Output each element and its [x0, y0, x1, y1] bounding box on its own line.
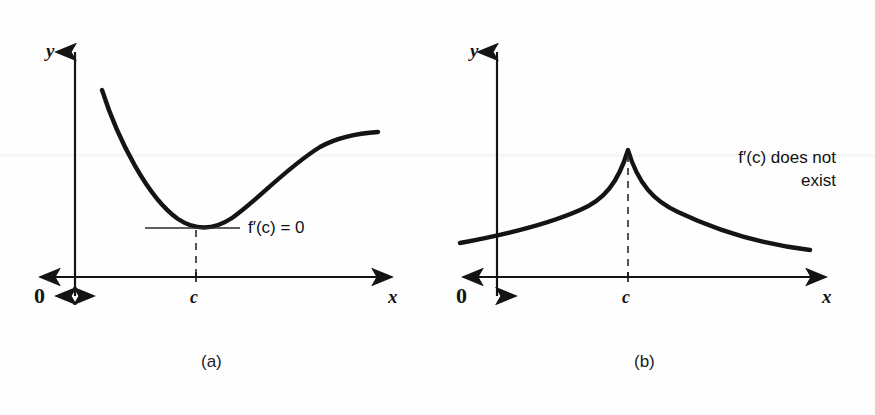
c-label-a: c [190, 287, 198, 308]
figure-root: y x 0 c f′(c) = 0 (a) [0, 0, 875, 415]
c-label-b: c [622, 287, 630, 308]
annotation-dne-text-line2: exist [801, 171, 836, 190]
panel-b: y x 0 c f′(c) does not exist (b) [438, 0, 875, 415]
annotation-dne-text-line1: f′(c) does not [738, 148, 836, 167]
function-curve-a [102, 90, 378, 228]
annotation-derivative-dne-line1: f′(c) does not exist [666, 147, 836, 193]
x-axis-label-a: x [388, 286, 398, 308]
panel-a: y x 0 c f′(c) = 0 (a) [0, 0, 437, 415]
y-axis-label-b: y [470, 40, 478, 62]
caption-a: (a) [201, 352, 222, 372]
origin-label-a: 0 [34, 283, 45, 308]
origin-label-b: 0 [456, 283, 467, 308]
caption-b: (b) [634, 352, 655, 372]
y-axis-label-a: y [46, 40, 54, 62]
panel-b-graphic [438, 0, 875, 415]
x-axis-label-b: x [822, 286, 832, 308]
annotation-derivative-zero: f′(c) = 0 [248, 218, 305, 238]
